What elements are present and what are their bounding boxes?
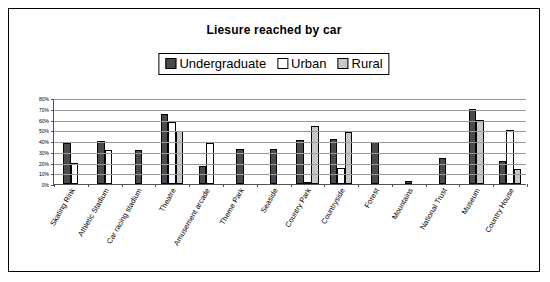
bar (439, 158, 447, 184)
y-tick-label: 80% (39, 97, 49, 102)
chart-screenshot: Liesure reached by car Undergraduate Urb… (0, 0, 550, 282)
bar (506, 130, 514, 184)
x-axis-label: Theme Park (218, 187, 245, 226)
y-tick-label: 10% (39, 172, 49, 177)
legend-label-rural: Rural (352, 57, 383, 70)
legend-label-urban: Urban (291, 57, 326, 70)
gridline (54, 99, 526, 100)
y-axis: 0%10%20%30%40%50%60%70%80% (26, 99, 50, 185)
y-tick-label: 70% (39, 107, 49, 112)
bar (296, 140, 304, 184)
legend-item-urban: Urban (277, 57, 326, 70)
x-axis-label: Car racing stadium (106, 187, 144, 245)
gridline (54, 153, 526, 154)
x-axis-label: Amusement arcade (173, 187, 212, 247)
bar (337, 168, 345, 184)
plot-wrapper: 0%10%20%30%40%50%60%70%80% (26, 99, 526, 185)
chart-legend: Undergraduate Urban Rural (158, 53, 389, 75)
x-axis-label: Forest (363, 187, 380, 209)
bar (499, 161, 507, 184)
bar (105, 150, 113, 184)
y-tick-label: 0% (42, 183, 49, 188)
x-axis-label: Seaside (259, 187, 279, 214)
legend-label-undergraduate: Undergraduate (179, 57, 266, 70)
x-axis-label: Athletic Stadium (77, 187, 111, 238)
legend-swatch-gray-icon (338, 58, 349, 69)
x-axis-label: Theatre (158, 187, 177, 213)
chart-frame: Liesure reached by car Undergraduate Urb… (8, 8, 540, 272)
bar (71, 163, 79, 185)
x-axis-label: Countryside (320, 187, 347, 225)
chart-title: Liesure reached by car (9, 23, 539, 37)
bar (311, 126, 319, 184)
bar (236, 149, 244, 184)
gridline (54, 131, 526, 132)
y-tick-label: 30% (39, 150, 49, 155)
x-axis-label: Skating Rink (49, 187, 77, 227)
bar (97, 141, 105, 184)
gridline (54, 121, 526, 122)
gridline (54, 142, 526, 143)
bar (345, 132, 353, 184)
gridline (54, 174, 526, 175)
x-axis-label: Country Park (285, 187, 313, 229)
x-axis-label: National Trust (418, 187, 448, 231)
x-axis-label: Museum (461, 187, 482, 216)
y-tick-label: 20% (39, 161, 49, 166)
y-tick-label: 50% (39, 129, 49, 134)
bar (135, 150, 143, 184)
bar (176, 131, 184, 184)
legend-swatch-white-icon (277, 58, 288, 69)
legend-swatch-dark-icon (165, 58, 176, 69)
gridline (54, 164, 526, 165)
gridline (54, 110, 526, 111)
legend-item-rural: Rural (338, 57, 383, 70)
bar (330, 139, 338, 184)
x-axis-labels: Skating RinkAthletic StadiumCar racing s… (53, 187, 533, 279)
legend-item-undergraduate: Undergraduate (165, 57, 266, 70)
y-tick-label: 60% (39, 118, 49, 123)
bar (514, 169, 522, 184)
bar (270, 149, 278, 184)
plot-area (53, 99, 526, 185)
x-axis-label: Mountains (390, 187, 414, 221)
bar (304, 182, 312, 184)
bar (405, 181, 413, 184)
y-tick-label: 40% (39, 140, 49, 145)
x-axis-label: Country House (484, 187, 516, 234)
